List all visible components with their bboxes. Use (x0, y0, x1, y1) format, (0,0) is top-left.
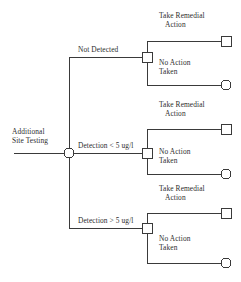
outcome-label-3-remedial-line1: Take Remedial (159, 184, 205, 193)
outcome-label-1-remedial-line2: Action (159, 20, 205, 29)
outcome-label-3-no-action-line1: No Action (159, 234, 191, 243)
terminal-square-2-remedial (221, 124, 231, 134)
terminal-circle-3-no-action (221, 258, 231, 268)
outcome-label-3-no-action: No Action Taken (159, 234, 191, 252)
outcome-label-3-remedial: Take Remedial Action (159, 184, 205, 202)
outcome-label-3-remedial-line2: Action (159, 193, 205, 202)
terminal-square-3-remedial (221, 208, 231, 218)
decision-node-square-2 (142, 148, 152, 158)
outcome-label-2-remedial-line1: Take Remedial (159, 100, 205, 109)
outcome-label-2-no-action-line2: Taken (159, 156, 191, 165)
outcome-label-1-remedial: Take Remedial Action (159, 11, 205, 29)
outcome-label-1-no-action-line2: Taken (159, 67, 191, 76)
terminal-circle-1-no-action (221, 80, 231, 90)
root-label: Additional Site Testing (12, 127, 48, 145)
outcome-label-1-remedial-line1: Take Remedial (159, 11, 205, 20)
root-label-line2: Site Testing (12, 136, 48, 145)
terminal-square-1-remedial (221, 36, 231, 46)
outcome-label-2-remedial: Take Remedial Action (159, 100, 205, 118)
branch-label-detection-lt-5: Detection < 5 ug/l (78, 141, 133, 150)
outcome-label-2-remedial-line2: Action (159, 109, 205, 118)
root-chance-node-circle (64, 148, 74, 158)
branch-label-detection-gt-5: Detection > 5 ug/l (78, 216, 133, 225)
outcome-label-1-no-action-line1: No Action (159, 58, 191, 67)
terminal-circle-2-no-action (221, 169, 231, 179)
root-label-line1: Additional (12, 127, 48, 136)
outcome-label-2-no-action: No Action Taken (159, 147, 191, 165)
outcome-label-1-no-action: No Action Taken (159, 58, 191, 76)
outcome-label-2-no-action-line1: No Action (159, 147, 191, 156)
outcome-label-3-no-action-line2: Taken (159, 243, 191, 252)
decision-node-square-3 (142, 223, 152, 233)
decision-tree-diagram: Additional Site Testing Not Detected Det… (0, 0, 241, 282)
decision-node-square-1 (142, 52, 152, 62)
branch-label-not-detected: Not Detected (78, 45, 118, 54)
